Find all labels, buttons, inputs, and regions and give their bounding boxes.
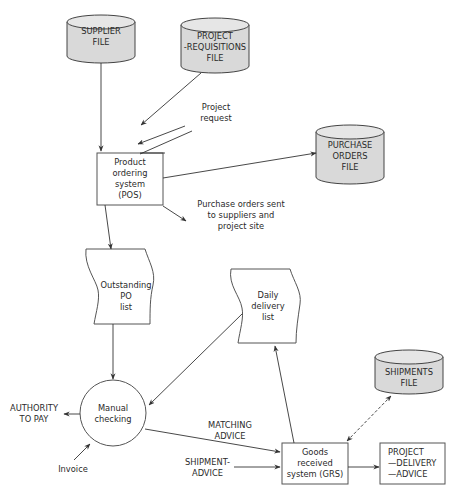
arrow-daily-to-checking	[149, 314, 242, 405]
manual-checking-label: Manual checking	[80, 403, 146, 425]
arrow-pos-to-purchase-orders	[163, 153, 316, 178]
arrow-pos-to-suppliers	[163, 206, 186, 221]
arrow-invoice	[74, 444, 90, 460]
purchase-orders-file-label: PURCHASE ORDERS FILE	[316, 140, 384, 173]
authority-to-pay-label: AUTHORITY TO PAY	[4, 403, 64, 425]
shipments-file-label: SHIPMENTS FILE	[375, 367, 443, 389]
project-delivery-advice-label: PROJECT —DELIVERY —ADVICE	[388, 447, 448, 480]
outstanding-po-label: Outstanding PO list	[95, 280, 157, 313]
supplier-file-label: SUPPLIER FILE	[67, 26, 135, 48]
grs-process-label: Goods received system (GRS)	[282, 447, 348, 480]
project-request-label: Project request	[186, 102, 246, 124]
project-requisitions-file-label: PROJECT -REQUISITIONS FILE	[176, 31, 254, 64]
daily-delivery-label: Daily delivery list	[238, 290, 298, 323]
purchase-orders-sent-label: Purchase orders sent to suppliers and pr…	[186, 199, 296, 232]
matching-advice-label: MATCHING ADVICE	[200, 420, 260, 442]
pos-process-label: Product ordering system (POS)	[97, 157, 163, 201]
invoice-label: Invoice	[50, 464, 96, 475]
arrow-grs-shipments	[347, 396, 391, 441]
arrow-grs-to-daily	[275, 346, 294, 443]
arrow-pos-to-outstanding-po	[105, 205, 111, 249]
arrow-project-request	[140, 131, 192, 154]
shipment-advice-label: SHIPMENT- ADVICE	[180, 457, 235, 479]
